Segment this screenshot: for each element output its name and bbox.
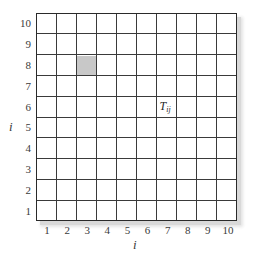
grid-hline bbox=[37, 54, 236, 55]
row-label: 8 bbox=[14, 59, 31, 71]
col-label: 10 bbox=[218, 224, 238, 236]
cell-annotation-subscript: ij bbox=[166, 105, 170, 114]
col-label: 3 bbox=[77, 224, 97, 236]
col-label: 9 bbox=[198, 224, 218, 236]
cell-annotation-tij: Tij bbox=[160, 99, 171, 117]
col-axis-label: i bbox=[133, 238, 137, 252]
col-label: 8 bbox=[178, 224, 198, 236]
grid-hline bbox=[37, 200, 236, 201]
grid-hline bbox=[37, 75, 236, 76]
row-label: 7 bbox=[14, 80, 31, 92]
col-label: 4 bbox=[97, 224, 117, 236]
grid-hline bbox=[37, 117, 236, 118]
grid-hline bbox=[37, 96, 236, 97]
grid-hline bbox=[37, 137, 236, 138]
grid-hline bbox=[37, 158, 236, 159]
row-label: 9 bbox=[14, 38, 31, 50]
row-label: 4 bbox=[14, 142, 31, 154]
row-label: 3 bbox=[14, 163, 31, 175]
col-label: 6 bbox=[138, 224, 158, 236]
col-label: 1 bbox=[37, 224, 57, 236]
row-axis-label: i bbox=[9, 120, 13, 134]
grid-hline bbox=[37, 179, 236, 180]
shaded-cell bbox=[77, 56, 97, 77]
grid-hline bbox=[37, 33, 236, 34]
row-label: 2 bbox=[14, 184, 31, 196]
row-label: 6 bbox=[14, 101, 31, 113]
row-label: 1 bbox=[14, 205, 31, 217]
col-label: 7 bbox=[158, 224, 178, 236]
row-label: 10 bbox=[14, 17, 31, 29]
col-label: 5 bbox=[117, 224, 137, 236]
row-label: 5 bbox=[14, 121, 31, 133]
col-label: 2 bbox=[57, 224, 77, 236]
grid bbox=[36, 13, 237, 221]
